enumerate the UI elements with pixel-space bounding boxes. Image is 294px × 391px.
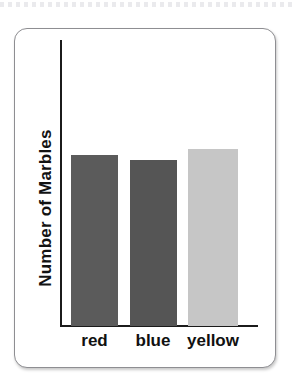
top-dotted-rule [0,2,294,7]
chart-card [14,28,276,368]
worksheet-page: Number of Marbles red blue yellow [0,0,294,391]
